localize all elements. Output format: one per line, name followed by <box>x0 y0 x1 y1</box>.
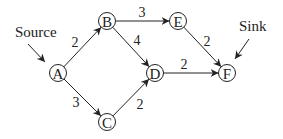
annotations: Source Sink <box>15 18 267 62</box>
edge-weight-E-F: 2 <box>204 34 211 49</box>
arrow-line <box>64 79 101 116</box>
edge-A-B <box>64 27 101 67</box>
edge-B-D <box>113 27 149 67</box>
source-arrow <box>28 44 45 62</box>
edge-weight-B-E: 3 <box>139 5 146 20</box>
edge-weight-A-B: 2 <box>72 35 79 50</box>
nodes: ABCDEF <box>50 13 236 131</box>
node-A: A <box>50 65 67 82</box>
edge-weight-A-C: 3 <box>73 95 80 110</box>
node-label: E <box>173 14 182 30</box>
edge-A-C <box>64 79 101 116</box>
arrow-line <box>184 27 221 67</box>
node-label: A <box>53 66 64 82</box>
node-C: C <box>99 114 116 131</box>
edge-C-D <box>113 79 149 116</box>
arrow-line <box>64 27 101 67</box>
node-E: E <box>170 13 187 30</box>
edge-weight-B-D: 4 <box>134 33 141 48</box>
node-label: D <box>150 66 161 82</box>
edge-weight-C-D: 2 <box>137 97 144 112</box>
node-label: F <box>223 66 231 82</box>
sink-label: Sink <box>239 18 267 34</box>
node-label: B <box>102 14 112 30</box>
node-D: D <box>147 65 164 82</box>
network-diagram: 2334222 ABCDEF Source Sink <box>0 0 283 139</box>
arrow-line <box>113 27 149 67</box>
source-label: Source <box>15 24 57 40</box>
edge-E-F <box>184 27 221 67</box>
sink-arrow <box>235 39 249 59</box>
node-label: C <box>102 115 112 131</box>
node-B: B <box>99 13 116 30</box>
node-F: F <box>219 65 236 82</box>
edge-weight-D-F: 2 <box>181 57 188 72</box>
arrow-line <box>113 79 149 116</box>
